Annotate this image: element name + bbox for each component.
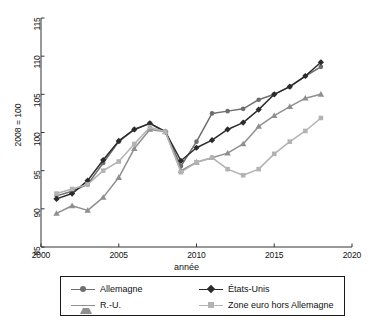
data-point bbox=[179, 170, 184, 175]
data-point bbox=[85, 182, 90, 187]
data-point bbox=[116, 159, 121, 164]
data-point bbox=[224, 150, 230, 156]
y-tick-label: 105 bbox=[33, 94, 42, 118]
data-point bbox=[194, 160, 199, 165]
data-point bbox=[271, 112, 277, 118]
plot-area bbox=[0, 0, 373, 262]
y-tick-label: 100 bbox=[33, 132, 42, 156]
legend-item-ru: R.-U. bbox=[61, 300, 189, 310]
data-point bbox=[256, 167, 261, 172]
data-point bbox=[132, 142, 137, 147]
legend-swatch-circle-icon bbox=[71, 284, 95, 294]
data-point bbox=[303, 129, 308, 134]
data-point bbox=[53, 196, 59, 202]
data-point bbox=[210, 155, 215, 160]
x-axis-label: année bbox=[0, 262, 373, 272]
legend-swatch-diamond-icon bbox=[199, 284, 223, 294]
data-point bbox=[272, 152, 277, 157]
legend-swatch-square-icon bbox=[199, 300, 223, 310]
chart-figure: 2008 = 100 année 859095100105110115 2000… bbox=[0, 0, 373, 323]
data-point bbox=[256, 97, 261, 102]
legend-label: États-Unis bbox=[228, 284, 270, 294]
data-point bbox=[69, 203, 75, 209]
x-tick-label: 2015 bbox=[258, 251, 290, 260]
y-tick-label: 110 bbox=[33, 55, 42, 79]
data-point bbox=[319, 116, 324, 121]
data-point bbox=[70, 187, 75, 192]
data-point bbox=[54, 191, 59, 196]
y-tick-label: 115 bbox=[33, 17, 42, 41]
x-tick-label: 2000 bbox=[25, 251, 57, 260]
chart-canvas bbox=[0, 0, 373, 262]
y-axis-label: 2008 = 100 bbox=[13, 90, 23, 160]
x-tick-label: 2010 bbox=[181, 251, 213, 260]
data-point bbox=[101, 168, 106, 173]
legend-item-zone-euro: Zone euro hors Allemagne bbox=[189, 300, 346, 310]
data-point bbox=[241, 107, 246, 112]
legend-label: Allemagne bbox=[100, 284, 143, 294]
data-point bbox=[225, 109, 230, 114]
data-point bbox=[148, 125, 153, 130]
legend-label: R.-U. bbox=[100, 300, 121, 310]
data-point bbox=[194, 139, 199, 144]
chart-legend: Allemagne États-Unis R.-U. bbox=[60, 276, 345, 316]
x-tick-label: 2020 bbox=[336, 251, 368, 260]
data-point bbox=[288, 139, 293, 144]
data-point bbox=[210, 111, 215, 116]
data-point bbox=[116, 174, 122, 180]
y-tick-label: 95 bbox=[33, 170, 42, 194]
legend-swatch-triangle-icon bbox=[71, 300, 95, 310]
data-point bbox=[318, 91, 324, 97]
y-tick-label: 90 bbox=[33, 208, 42, 232]
data-point bbox=[241, 173, 246, 178]
legend-label: Zone euro hors Allemagne bbox=[228, 300, 334, 310]
data-point bbox=[163, 129, 168, 134]
data-point bbox=[225, 167, 230, 172]
legend-item-allemagne: Allemagne bbox=[61, 284, 189, 294]
legend-item-etats-unis: États-Unis bbox=[189, 284, 346, 294]
x-tick-label: 2005 bbox=[103, 251, 135, 260]
